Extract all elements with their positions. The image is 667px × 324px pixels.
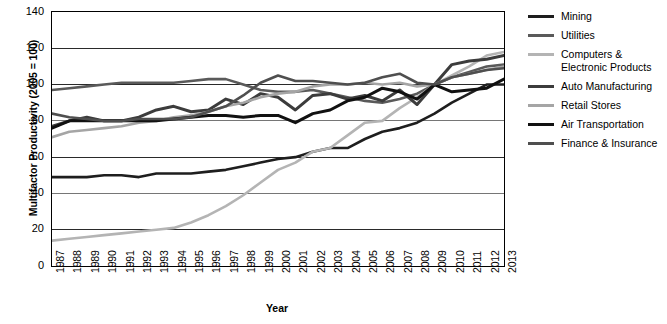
legend-swatch-line-icon (528, 123, 554, 126)
legend-item-label: Auto Manufacturing (561, 80, 652, 93)
x-axis-title: Year (51, 302, 503, 314)
series-line-retail-stores (52, 66, 504, 137)
x-tick-label: 1994 (177, 250, 188, 273)
y-tick-label: 40 (14, 187, 44, 198)
x-tick-label: 2011 (472, 251, 483, 273)
chart-legend: MiningUtilitiesComputers & Electronic Pr… (528, 10, 667, 156)
legend-item[interactable]: Mining (528, 10, 667, 23)
legend-item-label: Retail Stores (561, 99, 621, 112)
legend-item[interactable]: Finance & Insurance (528, 137, 667, 150)
y-tick-label: 120 (14, 42, 44, 53)
legend-item[interactable]: Auto Manufacturing (528, 80, 667, 93)
y-tick-label: 0 (14, 260, 44, 271)
x-tick-label: 1987 (55, 250, 66, 273)
y-tick-label: 140 (14, 6, 44, 17)
plot-area (51, 11, 505, 267)
legend-item[interactable]: Computers & Electronic Products (528, 48, 667, 73)
legend-swatch-line-icon (528, 15, 554, 18)
legend-item[interactable]: Retail Stores (528, 99, 667, 112)
x-tick-label: 2006 (385, 250, 396, 273)
legend-item-label: Mining (561, 10, 592, 23)
bottom-edge-artifact (352, 314, 667, 322)
x-tick-label: 2013 (507, 250, 518, 273)
series-line-computers-electronic-products (52, 52, 504, 241)
x-tick-label: 2008 (420, 250, 431, 273)
plot-svg (52, 12, 504, 266)
x-tick-label: 1991 (125, 250, 136, 273)
multifactor-productivity-line-chart: Multifactor Productivity (2005 = 100) 02… (0, 0, 667, 324)
legend-item[interactable]: Air Transportation (528, 118, 667, 131)
legend-swatch-line-icon (528, 85, 554, 88)
x-tick-label: 2012 (490, 250, 501, 273)
y-tick-label: 20 (14, 223, 44, 234)
y-tick-label: 100 (14, 78, 44, 89)
x-tick-label: 2001 (298, 250, 309, 273)
y-tick-label: 60 (14, 151, 44, 162)
x-tick-label: 2004 (351, 250, 362, 273)
x-tick-label: 2005 (368, 250, 379, 273)
legend-item[interactable]: Utilities (528, 29, 667, 42)
x-tick-label: 1993 (159, 250, 170, 273)
legend-swatch-line-icon (528, 142, 554, 145)
x-tick-label: 1995 (194, 250, 205, 273)
legend-item-label: Finance & Insurance (561, 137, 657, 150)
legend-item-label: Utilities (561, 29, 595, 42)
x-tick-label: 1988 (72, 250, 83, 273)
x-tick-label: 2003 (333, 250, 344, 273)
x-tick-label: 2007 (403, 250, 414, 273)
x-tick-label: 2000 (281, 250, 292, 273)
legend-item-label: Air Transportation (561, 118, 644, 131)
x-tick-label: 1989 (90, 250, 101, 273)
x-tick-label: 2002 (316, 250, 327, 273)
x-tick-label: 1996 (211, 250, 222, 273)
y-tick-label: 80 (14, 114, 44, 125)
x-tick-label: 1997 (229, 250, 240, 273)
x-tick-label: 1990 (107, 250, 118, 273)
x-tick-label: 1999 (264, 250, 275, 273)
legend-item-label: Computers & Electronic Products (561, 48, 651, 73)
x-tick-label: 1992 (142, 250, 153, 273)
legend-swatch-line-icon (528, 53, 554, 56)
x-tick-label: 2009 (437, 250, 448, 273)
x-tick-label: 1998 (246, 250, 257, 273)
x-tick-label: 2010 (455, 250, 466, 273)
legend-swatch-line-icon (528, 104, 554, 107)
legend-swatch-line-icon (528, 34, 554, 37)
